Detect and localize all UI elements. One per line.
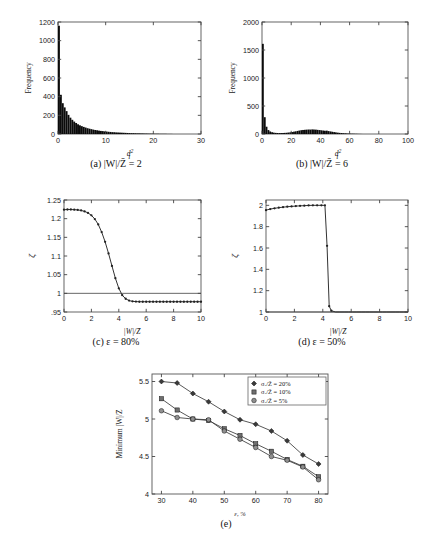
svg-text:5.5: 5.5 (139, 377, 149, 386)
svg-text:0: 0 (62, 314, 66, 323)
panel-d-plot: 024681011.21.41.61.82 ζ |W|/Z̄ (222, 186, 422, 338)
svg-text:10: 10 (102, 136, 110, 145)
panel-b-caption-text: |W|/Z̄ = 6 (310, 158, 348, 169)
panel-b: 0204060801000500100015002000 Frequency d… (222, 8, 422, 183)
panel-d-ylabel: ζ (230, 253, 240, 258)
panel-c: 0246810.9511.051.11.151.21.25 ζ |W|/Z̄ (… (18, 186, 214, 361)
svg-text:2: 2 (89, 314, 93, 323)
svg-text:400: 400 (43, 92, 55, 101)
svg-text:0: 0 (51, 130, 55, 139)
panel-a-frame (58, 22, 201, 134)
svg-text:1200: 1200 (39, 18, 55, 27)
panel-e-legend: σₓ/Z̄ = 20%σₓ/Z̄ = 10%σₓ/Z̄ = 5% (248, 377, 326, 405)
svg-text:6: 6 (349, 314, 353, 323)
svg-text:20: 20 (149, 136, 157, 145)
svg-text:0: 0 (260, 136, 264, 145)
svg-text:1.8: 1.8 (253, 222, 263, 231)
svg-text:0: 0 (255, 130, 259, 139)
panel-a-ylabel: Frequency (24, 62, 33, 93)
svg-text:100: 100 (402, 136, 414, 145)
panel-a-caption: (a) |W|/Z̄ = 2 (18, 158, 214, 169)
legend-label-0: σₓ/Z̄ = 20% (261, 380, 291, 387)
svg-text:1.15: 1.15 (47, 233, 61, 242)
svg-text:1000: 1000 (39, 36, 55, 45)
svg-text:1.05: 1.05 (47, 270, 61, 279)
panel-d-caption-text: ε = 50% (313, 336, 346, 347)
panel-d-caption: (d) ε = 50% (222, 336, 422, 347)
svg-text:2: 2 (292, 314, 296, 323)
svg-text:20: 20 (287, 136, 295, 145)
panel-d-xlabel: |W|/Z̄ (330, 327, 348, 336)
svg-text:4.5: 4.5 (139, 452, 149, 461)
svg-text:1.1: 1.1 (51, 252, 61, 261)
panel-d-frame (266, 200, 408, 312)
svg-text:60: 60 (252, 496, 260, 505)
svg-text:2000: 2000 (243, 18, 259, 27)
svg-text:1.2: 1.2 (51, 214, 61, 223)
svg-text:8: 8 (378, 314, 382, 323)
panel-c-caption: (c) ε = 80% (18, 336, 214, 347)
svg-text:1.25: 1.25 (47, 196, 61, 205)
svg-text:1: 1 (259, 308, 263, 317)
svg-text:600: 600 (43, 74, 55, 83)
svg-text:1.2: 1.2 (253, 286, 263, 295)
panel-b-caption: (b) |W|/Z̄ = 6 (222, 158, 422, 169)
panel-b-caption-prefix: (b) (296, 158, 308, 169)
svg-text:50: 50 (220, 496, 228, 505)
svg-text:1.6: 1.6 (253, 244, 263, 253)
svg-text:5: 5 (145, 415, 149, 424)
panel-a-caption-prefix: (a) (90, 158, 101, 169)
panel-a: 0102030020040060080010001200 Frequency d… (18, 8, 214, 183)
svg-text:1000: 1000 (243, 74, 259, 83)
svg-text:.95: .95 (51, 308, 61, 317)
panel-e-caption-prefix: (e) (220, 518, 231, 529)
svg-text:800: 800 (43, 55, 55, 64)
panel-e-ylabel: Minimum |W|/Z̄ (115, 409, 124, 459)
svg-text:30: 30 (197, 136, 205, 145)
panel-e-caption: (e) (108, 518, 344, 529)
svg-text:40: 40 (189, 496, 197, 505)
legend-label-2: σₓ/Z̄ = 5% (261, 397, 288, 404)
panel-c-frame (64, 200, 201, 312)
svg-text:60: 60 (346, 136, 354, 145)
panel-d-caption-prefix: (d) (298, 336, 310, 347)
svg-text:6: 6 (144, 314, 148, 323)
svg-text:0: 0 (56, 136, 60, 145)
svg-text:40: 40 (316, 136, 324, 145)
panel-c-plot: 0246810.9511.051.11.151.21.25 ζ |W|/Z̄ (18, 186, 214, 338)
svg-text:1: 1 (57, 289, 61, 298)
panel-e: 30405060708044.555.5 σₓ/Z̄ = 20%σₓ/Z̄ = … (108, 366, 344, 546)
legend-label-1: σₓ/Z̄ = 10% (261, 388, 291, 395)
svg-text:4: 4 (321, 314, 325, 323)
svg-text:10: 10 (197, 314, 205, 323)
svg-text:80: 80 (375, 136, 383, 145)
panel-c-ylabel: ζ (27, 253, 37, 258)
svg-text:80: 80 (315, 496, 323, 505)
panel-c-caption-text: ε = 80% (106, 336, 139, 347)
panel-d: 024681011.21.41.61.82 ζ |W|/Z̄ (d) ε = 5… (222, 186, 422, 361)
svg-text:70: 70 (283, 496, 291, 505)
panel-c-caption-prefix: (c) (93, 336, 104, 347)
svg-text:200: 200 (43, 111, 55, 120)
panel-c-xlabel: |W|/Z̄ (124, 327, 142, 336)
svg-text:4: 4 (145, 490, 149, 499)
svg-text:2: 2 (259, 201, 263, 210)
svg-text:4: 4 (117, 314, 121, 323)
panel-a-plot: 0102030020040060080010001200 Frequency d… (18, 8, 214, 160)
panel-b-frame (262, 22, 408, 134)
panel-a-caption-text: |W|/Z̄ = 2 (104, 158, 142, 169)
panel-e-plot: 30405060708044.555.5 σₓ/Z̄ = 20%σₓ/Z̄ = … (108, 366, 344, 521)
svg-text:8: 8 (172, 314, 176, 323)
panel-e-xlabel: ε, % (234, 510, 246, 517)
svg-text:1500: 1500 (243, 46, 259, 55)
svg-text:30: 30 (157, 496, 165, 505)
panel-b-ylabel: Frequency (228, 62, 237, 93)
svg-text:0: 0 (264, 314, 268, 323)
svg-text:500: 500 (247, 102, 259, 111)
svg-text:1.4: 1.4 (253, 265, 263, 274)
svg-text:10: 10 (404, 314, 412, 323)
panel-b-plot: 0204060801000500100015002000 Frequency d… (222, 8, 422, 160)
